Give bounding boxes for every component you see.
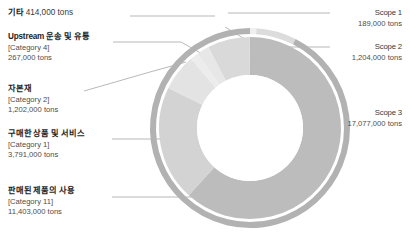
label-use-of-sold-products-category: [Category 11] xyxy=(8,197,75,207)
label-etc: 기타 414,000 tons xyxy=(8,8,73,19)
label-use-of-sold-products-value: 11,403,000 tons xyxy=(8,207,75,217)
label-scope-3: Scope 3 17,077,000 tons xyxy=(348,108,402,129)
ghg-emissions-donut-figure: 기타 414,000 tons Upstream 운송 및 유통 [Catego… xyxy=(0,0,410,237)
label-scope-2-title: Scope 2 xyxy=(352,42,402,53)
label-upstream-transport: Upstream 운송 및 유통 [Category 4] 267,000 to… xyxy=(8,32,89,63)
label-purchased-goods-services-value: 3,791,000 tons xyxy=(8,150,84,160)
label-capital-goods-title: 자본재 xyxy=(8,84,58,95)
label-scope-1: Scope 1 189,000 tons xyxy=(358,8,402,29)
label-scope-3-title: Scope 3 xyxy=(348,108,402,119)
label-scope-3-value: 17,077,000 tons xyxy=(348,119,402,129)
label-capital-goods-value: 1,202,000 tons xyxy=(8,105,58,115)
label-purchased-goods-services-category: [Category 1] xyxy=(8,140,84,150)
label-use-of-sold-products-title: 판매된 제품의 사용 xyxy=(8,186,75,197)
label-purchased-goods-services: 구매한 상품 및 서비스 [Category 1] 3,791,000 tons xyxy=(8,129,84,160)
label-capital-goods: 자본재 [Category 2] 1,202,000 tons xyxy=(8,84,58,115)
label-scope-1-value: 189,000 tons xyxy=(358,19,402,29)
label-capital-goods-category: [Category 2] xyxy=(8,95,58,105)
inner-arc-2 xyxy=(185,73,203,96)
donut-inner-ring xyxy=(178,56,322,200)
label-upstream-transport-category: [Category 4] xyxy=(8,43,89,53)
inner-ring-hole xyxy=(197,75,303,181)
inner-arc-remainder xyxy=(217,56,250,64)
inner-arc-3 xyxy=(178,96,202,181)
label-upstream-transport-value: 267,000 tons xyxy=(8,53,89,63)
inner-arc-1 xyxy=(203,69,208,73)
label-scope-2: Scope 2 1,204,000 tons xyxy=(352,42,402,63)
label-scope-1-title: Scope 1 xyxy=(358,8,402,19)
label-use-of-sold-products: 판매된 제품의 사용 [Category 11] 11,403,000 tons xyxy=(8,186,75,217)
leader-line-capital xyxy=(84,72,150,91)
label-etc-title: 기타 414,000 tons xyxy=(8,8,73,19)
label-scope-2-value: 1,204,000 tons xyxy=(352,53,402,63)
label-upstream-transport-title: Upstream 운송 및 유통 xyxy=(8,32,89,43)
label-purchased-goods-services-title: 구매한 상품 및 서비스 xyxy=(8,129,84,140)
inner-arc-0 xyxy=(208,64,217,69)
